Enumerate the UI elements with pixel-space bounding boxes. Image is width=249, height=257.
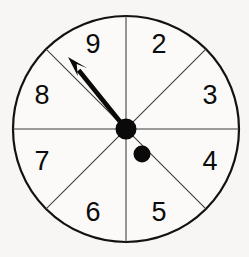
- sector-label-8: 8: [34, 80, 49, 110]
- sector-label-9: 9: [85, 29, 100, 59]
- sector-label-4: 4: [202, 146, 217, 176]
- center-pivot[interactable]: [116, 119, 137, 140]
- sector-label-6: 6: [85, 197, 100, 227]
- sector-label-3: 3: [202, 80, 217, 110]
- sector-label-5: 5: [151, 197, 166, 227]
- spinner-canvas: 92345678: [0, 0, 249, 257]
- sector-label-2: 2: [151, 29, 166, 59]
- sector-label-7: 7: [34, 146, 49, 176]
- pointer-tail-dot[interactable]: [134, 146, 151, 163]
- spinner-figure: 92345678: [0, 0, 249, 257]
